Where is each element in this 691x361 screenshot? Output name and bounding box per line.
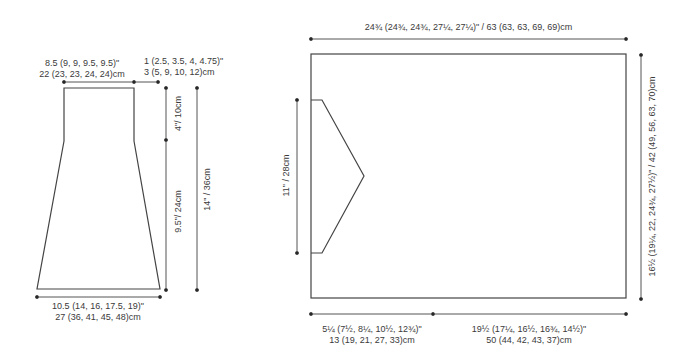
sleeve-cap-offset-label: 1 (2.5, 3.5, 4, 4.75)" 3 (5, 9, 10, 12)c… <box>144 56 223 78</box>
body-bottom-right-cm: 50 (44, 42, 43, 37)cm <box>464 335 594 346</box>
body-side-dimension-line <box>639 53 642 300</box>
sleeve-height-dimension-line <box>164 86 167 291</box>
sleeve-bottom-width-label: 10.5 (14, 16, 17.5, 19)" 27 (36, 41, 45,… <box>28 301 168 323</box>
body-bottom-left-inches: 5¼ (7½, 8¼, 10½, 12¾)" <box>312 324 432 335</box>
sleeve-lower-height-label: 9.5"/ 24cm <box>173 172 184 252</box>
sleeve-bottom-dimension-line <box>35 295 161 298</box>
body-bottom-left-label: 5¼ (7½, 8¼, 10½, 12¾)" 13 (19, 21, 27, 3… <box>312 324 432 346</box>
body-bottom-right-label: 19½ (17¼, 16½, 16¾, 14½)" 50 (44, 42, 43… <box>464 324 594 346</box>
sleeve-total-height-label: 14" / 36cm <box>202 150 213 230</box>
armhole-height-label: 11" / 28cm <box>281 141 292 211</box>
body-side-height-label: 16½ (19¼, 22, 24¾, 27½)" / 42 (49, 56, 6… <box>647 27 658 327</box>
sleeve-top-width-label: 8.5 (9, 9, 9.5, 9.5)" 22 (23, 23, 24, 24… <box>12 58 152 80</box>
sleeve-bottom-width-inches: 10.5 (14, 16, 17.5, 19)" <box>28 301 168 312</box>
sleeve-top-width-inches: 8.5 (9, 9, 9.5, 9.5)" <box>12 58 152 69</box>
body-outline <box>311 54 626 298</box>
body-bottom-dimension-line <box>309 312 627 315</box>
sleeve-cap-offset-inches: 1 (2.5, 3.5, 4, 4.75)" <box>144 56 223 67</box>
body-bottom-left-cm: 13 (19, 21, 27, 33)cm <box>312 335 432 346</box>
sleeve-top-width-cm: 22 (23, 23, 24, 24)cm <box>12 69 152 80</box>
body-top-dimension-line <box>309 37 627 40</box>
sleeve-upper-height-label: 4"/ 10cm <box>173 84 184 144</box>
body-top-width-label: 24¾ (24¾, 24¾, 27¼, 27¼)" / 63 (63, 63, … <box>311 22 626 33</box>
sleeve-outline <box>37 88 160 289</box>
sleeve-top-dimension-line <box>62 80 159 83</box>
armhole-dimension-line <box>295 98 298 254</box>
body-bottom-right-inches: 19½ (17¼, 16½, 16¾, 14½)" <box>464 324 594 335</box>
sleeve-bottom-width-cm: 27 (36, 41, 45, 48)cm <box>28 312 168 323</box>
sleeve-cap-offset-cm: 3 (5, 9, 10, 12)cm <box>144 67 223 78</box>
sleeve-total-height-dimension-line <box>195 86 198 291</box>
